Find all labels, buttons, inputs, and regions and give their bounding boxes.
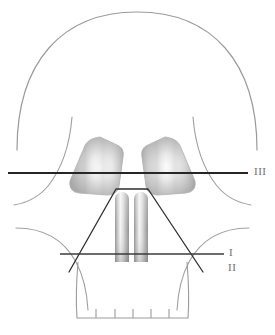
orbit-left-striation (70, 137, 123, 195)
reference-line-two-label: II (228, 262, 236, 273)
maxilla-group (76, 262, 188, 318)
nasal-turbinates-group (115, 192, 148, 262)
nasal-aperture-group (116, 189, 148, 190)
cheek-curves-group (16, 228, 249, 310)
orbit-right-striation (142, 137, 195, 195)
reference-line-one-label: I (229, 247, 233, 258)
cranial-vault-outline (17, 12, 257, 150)
orbits-group (70, 137, 195, 195)
nasal-turbinate-left-shade (115, 192, 129, 262)
temporal-line-left (14, 117, 72, 205)
skull-illustration (0, 0, 275, 335)
temporal-lines-group (14, 117, 251, 205)
cranial-vault-group (17, 12, 257, 150)
nasal-turbinate-right-shade (134, 192, 148, 262)
line-two-right-diagonal (148, 189, 203, 272)
line-two-left-diagonal (69, 189, 116, 272)
skull-diagram: III I II (0, 0, 275, 335)
reference-line-three-label: III (254, 166, 267, 177)
temporal-line-right (193, 117, 251, 205)
